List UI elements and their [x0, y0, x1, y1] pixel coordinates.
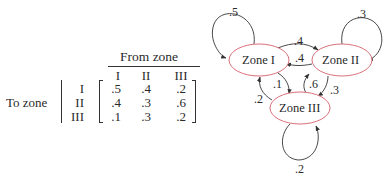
- edge-zone2-to-zone3: [318, 76, 328, 96]
- edge-label-zone1-to-zone2: .4: [294, 35, 303, 47]
- edge-label-zone2-self: .3: [357, 8, 366, 20]
- edge-label-zone1-to-zone3: .1: [273, 78, 282, 90]
- node-label-zone2: Zone II: [322, 54, 359, 67]
- node-label-zone1: Zone I: [242, 54, 275, 67]
- edge-label-zone2-to-zone1: .4: [295, 52, 304, 64]
- node-label-zone3: Zone III: [279, 102, 320, 115]
- edge-label-zone3-self: .2: [295, 163, 304, 175]
- edge-label-zone3-to-zone1: .2: [254, 93, 263, 105]
- edge-label-zone2-to-zone3: .3: [330, 84, 339, 96]
- edge-label-zone3-to-zone2: .6: [309, 78, 318, 90]
- edge-label-zone1-self: .5: [229, 6, 238, 18]
- edge-zone3-self: [282, 124, 318, 160]
